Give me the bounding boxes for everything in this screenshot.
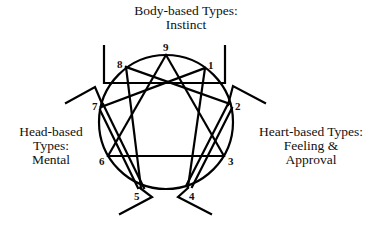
point-9-label: 9 (163, 41, 169, 53)
point-1-label: 1 (208, 59, 214, 71)
point-7-label: 7 (92, 100, 98, 112)
point-4-label: 4 (189, 190, 195, 202)
point-3-label: 3 (228, 155, 234, 167)
enneagram-diagram: 9 1 2 3 4 5 6 7 8 (0, 0, 370, 226)
point-6-label: 6 (99, 155, 105, 167)
heart-group-zigzag-top (228, 86, 265, 105)
heart-group-zigzag-bottom (178, 188, 211, 214)
line-1-4 (188, 68, 205, 187)
point-5-label: 5 (134, 190, 140, 202)
line-5-7-a (103, 104, 144, 188)
enneagram-circle (99, 55, 233, 189)
point-2-label: 2 (235, 100, 241, 112)
point-8-label: 8 (117, 58, 123, 70)
line-7-1 (101, 68, 205, 107)
